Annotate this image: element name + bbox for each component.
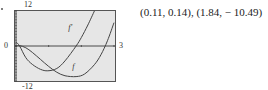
xmax-tick-label: 3 bbox=[119, 41, 123, 50]
xmin-tick-label: 0 bbox=[4, 41, 8, 50]
series-fprime-label: f' bbox=[68, 23, 72, 32]
ymin-tick-label: -12 bbox=[22, 82, 33, 90]
ymax-tick-label: 12 bbox=[24, 0, 32, 9]
extrema-annotation: (0.11, 0.14), (1.84, − 10.49) bbox=[140, 6, 262, 18]
calculator-plot: f f' bbox=[14, 10, 116, 82]
exercise-marker bbox=[1, 8, 3, 10]
